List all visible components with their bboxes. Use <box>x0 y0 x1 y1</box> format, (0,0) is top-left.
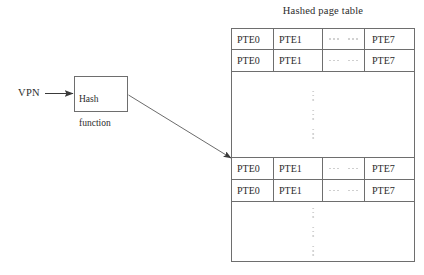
table-cell-pte1: PTE1 <box>274 29 323 49</box>
hash-function-label: Hash function <box>79 81 111 129</box>
hash-function-label-line1: Hash <box>79 94 99 104</box>
table-cell-pte1: PTE1 <box>274 50 323 71</box>
diagram-canvas: Hashed page table VPN Hash function PTE0… <box>0 0 424 275</box>
table-cell-pte7: PTE7 <box>365 50 414 71</box>
table-row: PTE0 PTE1 PTE7 <box>232 158 414 180</box>
table-row-ellipsis <box>232 202 414 261</box>
table-cell-ellipsis <box>323 180 365 201</box>
table-cell-pte0: PTE0 <box>232 29 274 49</box>
table-row: PTE0 PTE1 PTE7 <box>232 180 414 202</box>
horizontal-ellipsis-icon <box>323 38 364 40</box>
hash-function-label-line2: function <box>79 118 111 128</box>
table-row: PTE0 PTE1 PTE7 <box>232 29 414 50</box>
vertical-ellipsis-icon <box>312 207 314 255</box>
table-cell-ellipsis <box>323 29 365 49</box>
page-title: Hashed page table <box>231 5 415 16</box>
table-cell-pte7: PTE7 <box>365 29 414 49</box>
table-cell-ellipsis <box>323 158 365 179</box>
vpn-label: VPN <box>18 87 40 98</box>
table-cell-pte0: PTE0 <box>232 180 274 201</box>
table-row: PTE0 PTE1 PTE7 <box>232 50 414 72</box>
table-cell-ellipsis <box>323 50 365 71</box>
vertical-ellipsis-icon <box>312 90 314 138</box>
table-row-ellipsis <box>232 72 414 158</box>
hash-function-box: Hash function <box>74 76 128 112</box>
hashed-page-table: PTE0 PTE1 PTE7 PTE0 PTE1 PTE7 <box>231 28 415 262</box>
horizontal-ellipsis-icon <box>323 168 364 170</box>
table-cell-pte0: PTE0 <box>232 50 274 71</box>
table-cell-pte0: PTE0 <box>232 158 274 179</box>
horizontal-ellipsis-icon <box>323 60 364 62</box>
table-cell-pte1: PTE1 <box>274 158 323 179</box>
table-cell-pte7: PTE7 <box>365 180 414 201</box>
table-cell-pte7: PTE7 <box>365 158 414 179</box>
horizontal-ellipsis-icon <box>323 190 364 192</box>
arrow-hash-to-bucket <box>129 95 232 158</box>
table-cell-pte1: PTE1 <box>274 180 323 201</box>
